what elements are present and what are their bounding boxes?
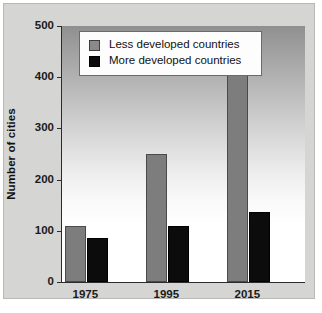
y-tick-label: 100 (35, 225, 54, 237)
legend-label: Less developed countries (109, 39, 239, 51)
y-tick-mark (57, 282, 62, 283)
legend-label: More developed countries (109, 55, 241, 67)
legend-item: Less developed countries (89, 37, 252, 53)
chart-card: Number of cities 0100200300400500 Less d… (3, 3, 315, 299)
y-tick-label: 400 (35, 71, 54, 83)
x-tick-label: 2015 (235, 288, 261, 300)
chart-legend: Less developed countries More developed … (79, 31, 262, 76)
y-tick-label: 500 (35, 20, 54, 32)
bar (249, 212, 270, 282)
legend-swatch-less-developed-icon (89, 40, 100, 51)
bar (227, 63, 248, 282)
legend-item: More developed countries (89, 53, 252, 69)
chart-figure: Number of cities 0100200300400500 Less d… (0, 0, 322, 313)
x-tick-label: 1995 (154, 288, 180, 300)
y-tick-label: 300 (35, 123, 54, 135)
y-tick-label: 0 (48, 276, 54, 288)
legend-swatch-more-developed-icon (89, 56, 100, 67)
y-axis-title: Number of cities (5, 108, 17, 200)
y-tick-label: 200 (35, 174, 54, 186)
x-tick-label: 1975 (73, 288, 99, 300)
